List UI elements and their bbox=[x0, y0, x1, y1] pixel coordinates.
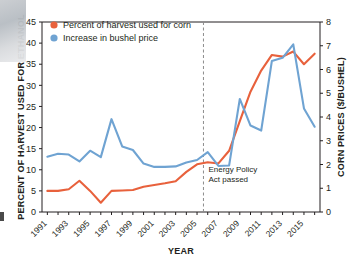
page-bleed-artifact bbox=[0, 0, 26, 62]
dual-axis-line-chart: 051015202530354045 012345678 19911993199… bbox=[0, 0, 352, 258]
legend-swatch bbox=[50, 21, 57, 28]
event-marker-group: Energy Policy Act passed bbox=[203, 22, 257, 212]
x-axis-title: YEAR bbox=[168, 246, 194, 256]
chart-figure: 051015202530354045 012345678 19911993199… bbox=[0, 0, 352, 258]
x-tick-label: 2005 bbox=[178, 218, 199, 239]
series-line-bushel-price bbox=[47, 44, 314, 167]
x-tick-label: 2013 bbox=[264, 218, 285, 239]
x-tick-label: 2007 bbox=[199, 218, 220, 239]
left-tick-label: 5 bbox=[31, 186, 36, 196]
right-tick-label: 6 bbox=[326, 65, 331, 75]
energy-policy-act-label-line1: Energy Policy bbox=[208, 165, 257, 174]
right-tick-label: 0 bbox=[326, 207, 331, 217]
x-tick-label: 2001 bbox=[135, 218, 156, 239]
legend-swatch bbox=[50, 34, 57, 41]
x-tick-label: 1995 bbox=[71, 218, 92, 239]
chart-legend: Percent of harvest used for cornIncrease… bbox=[50, 20, 191, 43]
left-axis-ticks: 051015202530354045 bbox=[26, 17, 42, 217]
x-tick-label: 2003 bbox=[157, 218, 178, 239]
legend-label: Percent of harvest used for corn bbox=[63, 20, 191, 30]
right-tick-label: 8 bbox=[326, 17, 331, 27]
page-edge-mark bbox=[0, 212, 4, 221]
legend-label: Increase in bushel price bbox=[63, 33, 158, 43]
left-tick-label: 15 bbox=[26, 144, 36, 154]
x-tick-label: 2011 bbox=[243, 218, 263, 238]
data-series-group bbox=[47, 44, 314, 202]
left-tick-label: 30 bbox=[26, 81, 36, 91]
x-tick-label: 2009 bbox=[221, 218, 242, 239]
left-tick-label: 35 bbox=[26, 59, 36, 69]
x-tick-label: 2015 bbox=[285, 218, 306, 239]
left-tick-label: 0 bbox=[31, 207, 36, 217]
left-tick-label: 10 bbox=[26, 165, 36, 175]
right-tick-label: 7 bbox=[326, 41, 331, 51]
right-tick-label: 4 bbox=[326, 112, 331, 122]
x-tick-label: 1991 bbox=[28, 218, 49, 239]
left-tick-label: 25 bbox=[26, 102, 36, 112]
right-tick-label: 1 bbox=[326, 183, 331, 193]
bottom-axis-ticks: 1991199319951997199920012003200520072009… bbox=[28, 212, 314, 239]
left-tick-label: 45 bbox=[26, 17, 36, 27]
right-axis-title: CORN PRICES ($/BUSHEL) bbox=[336, 57, 346, 177]
x-tick-label: 1999 bbox=[114, 218, 135, 239]
left-tick-label: 20 bbox=[26, 123, 36, 133]
energy-policy-act-label-line2: Act passed bbox=[208, 175, 248, 184]
series-line-percent-harvest bbox=[47, 52, 314, 203]
left-tick-label: 40 bbox=[26, 38, 36, 48]
right-axis-ticks: 012345678 bbox=[320, 17, 331, 217]
right-tick-label: 3 bbox=[326, 136, 331, 146]
right-tick-label: 2 bbox=[326, 160, 331, 170]
x-tick-label: 1993 bbox=[50, 218, 71, 239]
right-tick-label: 5 bbox=[326, 88, 331, 98]
x-tick-label: 1997 bbox=[92, 218, 113, 239]
